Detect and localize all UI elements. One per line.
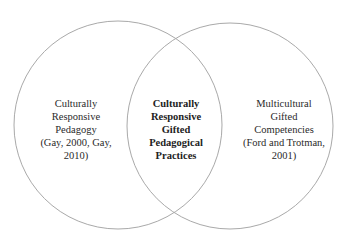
right-label-line: 2001)	[232, 149, 336, 162]
right-label-line: Multicultural	[232, 97, 336, 110]
intersection-label-line: Responsive	[124, 110, 228, 123]
left-label-line: Culturally	[24, 97, 128, 110]
intersection-label-line: Culturally	[124, 97, 228, 110]
left-circle-label: Culturally Responsive Pedagogy (Gay, 200…	[24, 97, 128, 162]
left-label-line: 2010)	[24, 149, 128, 162]
left-label-line: Pedagogy	[24, 123, 128, 136]
right-label-line: (Ford and Trotman,	[232, 136, 336, 149]
right-label-line: Competencies	[232, 123, 336, 136]
intersection-label-line: Pedagogical	[124, 136, 228, 149]
right-label-line: Gifted	[232, 110, 336, 123]
right-circle-label: Multicultural Gifted Competencies (Ford …	[232, 97, 336, 162]
intersection-label-line: Practices	[124, 149, 228, 162]
intersection-label: Culturally Responsive Gifted Pedagogical…	[124, 97, 228, 162]
left-label-line: Responsive	[24, 110, 128, 123]
left-label-line: (Gay, 2000, Gay,	[24, 136, 128, 149]
intersection-label-line: Gifted	[124, 123, 228, 136]
